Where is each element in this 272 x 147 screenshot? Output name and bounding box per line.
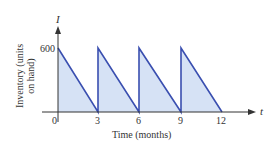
x-tick-12: 12	[216, 115, 226, 126]
inventory-chart: I t 600 0 3 6 9 12 Time (months) Invento…	[0, 0, 272, 147]
x-tick-0: 0	[52, 115, 57, 126]
y-tick-600: 600	[40, 43, 55, 54]
x-axis-title: Time (months)	[112, 129, 171, 141]
svg-text:on hand): on hand)	[25, 58, 37, 93]
x-tick-9: 9	[178, 115, 183, 126]
x-tick-6: 6	[136, 115, 141, 126]
x-axis-var: t	[260, 105, 264, 117]
x-axis-arrow-icon	[248, 109, 256, 115]
y-axis-title: Inventory (units on hand)	[14, 44, 37, 108]
y-axis-arrow-icon	[55, 26, 61, 34]
x-tick-3: 3	[95, 115, 100, 126]
inventory-area	[58, 48, 222, 112]
y-axis-var: I	[55, 13, 61, 25]
